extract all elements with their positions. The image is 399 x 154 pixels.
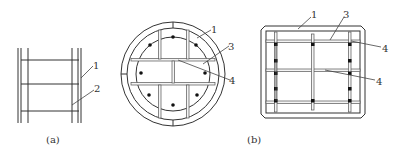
rebar-dot [348, 99, 352, 103]
rebar-dot [148, 43, 152, 47]
stiffener-plate-vertical-top-left [159, 30, 162, 59]
callout-label-3: 3 [343, 9, 349, 20]
leader-line-3 [330, 17, 344, 40]
rebar-dot [348, 59, 352, 63]
callout-label-4-middle: 4 [376, 76, 382, 87]
leader-line-3 [203, 46, 229, 64]
rebar-dot [147, 93, 151, 97]
callout-label-2: 2 [94, 83, 100, 94]
callout-label-4-top: 4 [382, 43, 388, 54]
leader-line-1 [298, 17, 311, 29]
rebar-dot [194, 43, 198, 47]
rebar-dot [195, 93, 199, 97]
rebar-dot [171, 35, 175, 39]
panel-a-elevation: 1 2 (a) [18, 48, 100, 145]
stiffener-plate-horizontal-top [131, 59, 215, 62]
rebar-dot [139, 71, 143, 75]
leader-line-4-top [351, 41, 381, 47]
rebar-dot [171, 103, 175, 107]
rebar-dot [348, 87, 352, 91]
diagram-canvas: 1 2 (a) [0, 0, 399, 154]
leader-line-1 [81, 66, 93, 78]
panel-b-circular-section: 1 3 4 [121, 22, 235, 126]
rebar-dot [203, 71, 207, 75]
stiffener-plate-vertical-bottom-right [187, 85, 190, 118]
panel-b-square-section: 1 3 4 4 [261, 9, 388, 118]
leader-line-2 [72, 90, 94, 105]
callout-label-4: 4 [229, 75, 235, 86]
rebar-dot [311, 99, 315, 103]
stiffener-plate-vertical-center [172, 61, 175, 83]
caption-a: (a) [46, 134, 60, 145]
caption-b: (b) [247, 134, 261, 145]
callout-label-3: 3 [228, 41, 234, 52]
callout-label-1: 1 [211, 24, 217, 35]
rebar-dot [348, 43, 352, 47]
rebar-dot [311, 43, 315, 47]
callout-label-1: 1 [93, 60, 99, 71]
callout-label-1: 1 [311, 9, 317, 20]
stiffener-plate-vertical-top-right [187, 30, 190, 59]
stiffener-plate-vertical-bottom-left [159, 85, 162, 118]
